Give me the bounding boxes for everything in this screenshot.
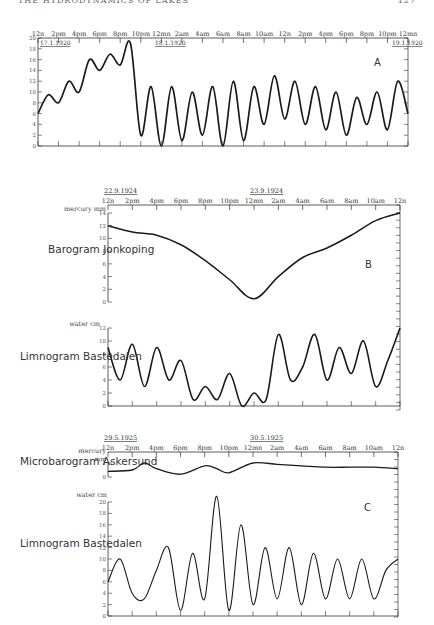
svg-text:10pm: 10pm xyxy=(378,30,397,38)
svg-text:2pm: 2pm xyxy=(125,444,139,452)
barogram-name: Barogram Jonkoping xyxy=(48,243,154,255)
svg-text:6am: 6am xyxy=(318,444,332,452)
svg-text:6pm: 6pm xyxy=(174,197,188,205)
limnogram-b-label: Limnogram Bastedalen xyxy=(20,350,142,362)
svg-text:6pm: 6pm xyxy=(339,30,353,38)
svg-text:16: 16 xyxy=(29,57,36,63)
svg-text:4pm: 4pm xyxy=(319,30,333,38)
svg-text:8am: 8am xyxy=(344,197,358,205)
svg-text:12: 12 xyxy=(29,78,36,84)
svg-text:30.5.1925: 30.5.1925 xyxy=(250,434,283,442)
svg-text:18.1.1920: 18.1.1920 xyxy=(155,39,186,46)
svg-text:20: 20 xyxy=(99,499,106,505)
svg-text:12mn: 12mn xyxy=(245,197,264,205)
svg-text:22.9.1924: 22.9.1924 xyxy=(104,187,137,195)
svg-text:2pm: 2pm xyxy=(51,30,65,38)
svg-text:0: 0 xyxy=(103,474,107,480)
svg-text:4am: 4am xyxy=(296,197,310,205)
svg-text:water cm: water cm xyxy=(76,491,107,499)
barogram-label: Barogram Jonkoping xyxy=(48,243,154,255)
svg-text:8am: 8am xyxy=(343,444,357,452)
figure-canvas: 12n2pm4pm6pm8pm10pm12mn2am4am6am8am10am1… xyxy=(0,0,434,625)
svg-text:12: 12 xyxy=(99,223,106,229)
svg-text:20: 20 xyxy=(29,35,36,41)
svg-text:4am: 4am xyxy=(294,444,308,452)
svg-text:2pm: 2pm xyxy=(298,30,312,38)
svg-text:mercury: mercury xyxy=(78,447,106,455)
svg-text:4: 4 xyxy=(103,377,107,383)
svg-text:12mn: 12mn xyxy=(244,444,263,452)
svg-text:4pm: 4pm xyxy=(149,197,163,205)
svg-text:6: 6 xyxy=(103,579,107,585)
svg-text:8: 8 xyxy=(33,100,37,106)
svg-text:10pm: 10pm xyxy=(220,444,239,452)
svg-text:0: 0 xyxy=(103,613,107,619)
svg-text:8pm: 8pm xyxy=(113,30,127,38)
svg-text:10: 10 xyxy=(99,556,106,562)
svg-text:14: 14 xyxy=(99,210,106,216)
svg-text:18: 18 xyxy=(99,510,106,516)
svg-text:19.1.1920: 19.1.1920 xyxy=(392,39,423,46)
svg-text:6am: 6am xyxy=(216,30,230,38)
svg-text:18: 18 xyxy=(29,46,36,52)
svg-text:0: 0 xyxy=(103,403,107,409)
svg-text:2: 2 xyxy=(103,286,107,292)
svg-text:2: 2 xyxy=(103,390,107,396)
svg-text:10am: 10am xyxy=(255,30,273,38)
svg-text:6am: 6am xyxy=(320,197,334,205)
limnogram-c-label: Limnogram Bastedalen xyxy=(20,537,142,549)
svg-text:12n: 12n xyxy=(102,197,114,205)
svg-text:6: 6 xyxy=(103,364,107,370)
svg-text:10am: 10am xyxy=(367,197,385,205)
panel-label-c: C xyxy=(364,502,371,513)
svg-text:10: 10 xyxy=(99,338,106,344)
svg-text:2am: 2am xyxy=(175,30,189,38)
microbarogram-label: Microbarogram Askersund xyxy=(20,455,157,467)
svg-text:0: 0 xyxy=(33,143,37,149)
svg-text:8pm: 8pm xyxy=(197,444,211,452)
svg-text:17.1.1920: 17.1.1920 xyxy=(40,39,71,46)
svg-text:10pm: 10pm xyxy=(220,197,239,205)
svg-text:4pm: 4pm xyxy=(72,30,86,38)
svg-text:10: 10 xyxy=(99,235,106,241)
svg-text:8: 8 xyxy=(103,567,107,573)
svg-text:2am: 2am xyxy=(271,197,285,205)
svg-text:8pm: 8pm xyxy=(198,197,212,205)
svg-text:12mn: 12mn xyxy=(152,30,171,38)
svg-text:4pm: 4pm xyxy=(149,444,163,452)
svg-text:2am: 2am xyxy=(270,444,284,452)
panel-label-a: A xyxy=(374,57,381,68)
svg-text:14: 14 xyxy=(29,67,36,73)
svg-text:2: 2 xyxy=(33,132,37,138)
limnogram-b-name: Limnogram Bastedalen xyxy=(20,350,142,362)
svg-text:4: 4 xyxy=(103,590,107,596)
limnogram-c-name: Limnogram Bastedalen xyxy=(20,537,142,549)
svg-text:6pm: 6pm xyxy=(173,444,187,452)
panel-label-b: B xyxy=(365,259,372,270)
svg-text:4: 4 xyxy=(33,121,37,127)
svg-text:10pm: 10pm xyxy=(131,30,150,38)
svg-text:12n: 12n xyxy=(278,30,290,38)
svg-text:0: 0 xyxy=(103,299,107,305)
svg-text:23.9.1924: 23.9.1924 xyxy=(250,187,283,195)
svg-text:8pm: 8pm xyxy=(360,30,374,38)
svg-text:6pm: 6pm xyxy=(92,30,106,38)
svg-text:2: 2 xyxy=(103,602,107,608)
svg-text:16: 16 xyxy=(99,522,106,528)
svg-text:10: 10 xyxy=(29,89,36,95)
svg-text:12mn: 12mn xyxy=(399,30,418,38)
svg-text:12n: 12n xyxy=(392,444,404,452)
svg-text:8am: 8am xyxy=(236,30,250,38)
svg-text:12n: 12n xyxy=(394,197,406,205)
svg-text:10am: 10am xyxy=(365,444,383,452)
microbarogram-name: Microbarogram Askersund xyxy=(20,455,157,467)
svg-text:2pm: 2pm xyxy=(125,197,139,205)
svg-text:29.5.1925: 29.5.1925 xyxy=(104,434,137,442)
svg-text:6: 6 xyxy=(33,111,37,117)
svg-text:4am: 4am xyxy=(195,30,209,38)
svg-text:12: 12 xyxy=(99,325,106,331)
svg-text:water cm: water cm xyxy=(69,320,100,328)
svg-text:4: 4 xyxy=(103,274,107,280)
svg-text:6: 6 xyxy=(103,261,107,267)
